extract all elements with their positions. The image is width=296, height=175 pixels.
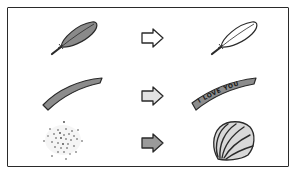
ribbon-text: I LOVE YOU [196,79,239,103]
seashell-icon [210,119,256,163]
svg-text:I LOVE YOU: I LOVE YOU [196,79,239,103]
white-feather-icon [208,18,260,58]
ribbon-icon: I LOVE YOU [190,75,258,111]
gray-feather-icon [48,18,100,58]
arrow-dark-gray-icon [141,133,165,153]
sand-grains-icon [36,118,92,162]
gray-strip-icon [40,75,104,111]
arrow-light-gray-icon [141,86,165,106]
arrow-white-icon [141,28,165,48]
